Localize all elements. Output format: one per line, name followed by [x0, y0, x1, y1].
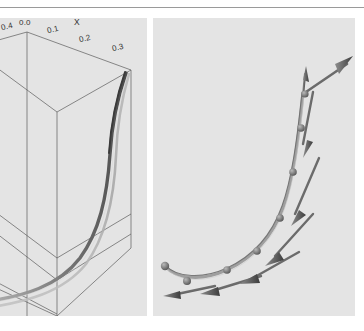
tube-specular-highlight — [0, 75, 128, 306]
sphere-marker-0 — [161, 262, 169, 270]
right-plot-canvas — [153, 18, 355, 316]
sphere-marker-6 — [297, 124, 305, 132]
top-divider-rule — [0, 7, 364, 8]
tube-body-dark — [0, 73, 126, 304]
tick-label-x-0-0: 0.0 — [19, 18, 31, 27]
panel-right-vector-curve[interactable] — [153, 18, 355, 316]
sphere-marker-1 — [183, 277, 191, 285]
vector-arrow-glyphs — [163, 56, 353, 299]
curve-tube — [165, 92, 304, 279]
box-edge-top-left-diagonal — [0, 48, 57, 112]
box-edge-mid-left-2 — [0, 213, 57, 280]
sphere-marker-3 — [253, 247, 261, 255]
box-edge-top-back-left — [0, 32, 27, 48]
panel-container: 0.4 0.0 0.1 0.2 0.3 X — [0, 18, 364, 316]
vector-arrow-5 — [291, 158, 319, 226]
sphere-marker-4 — [276, 214, 284, 222]
vector-arrow-6 — [303, 92, 313, 158]
sphere-marker-7 — [301, 90, 308, 97]
sphere-marker-5 — [289, 168, 297, 176]
axis-title-x: X — [74, 18, 80, 27]
vector-arrow-7 — [303, 56, 353, 96]
sphere-marker-2 — [223, 266, 231, 274]
box-edge-mid-left — [0, 193, 57, 258]
box-edge-mid-right-2 — [57, 234, 131, 280]
left-plot-canvas — [0, 18, 147, 316]
curve-highlight-edge — [166, 96, 304, 279]
curve-sphere-markers — [161, 90, 309, 285]
panel-left-3d-box[interactable]: 0.4 0.0 0.1 0.2 0.3 X — [0, 18, 147, 316]
curve-body — [165, 94, 303, 277]
figure-root: 0.4 0.0 0.1 0.2 0.3 X — [0, 0, 364, 331]
